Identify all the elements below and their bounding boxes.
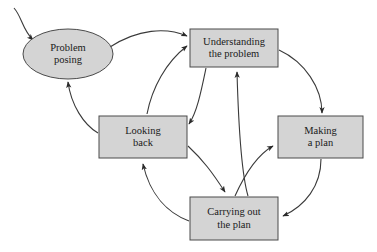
- nodes-group: [23, 29, 363, 240]
- node-carrying-out-the-plan[interactable]: [190, 197, 278, 240]
- edge-looking-back-to-understanding: [147, 46, 187, 114]
- edge-understanding-to-looking-back: [189, 68, 206, 124]
- edge-problem-posing-to-understanding: [110, 31, 187, 47]
- node-understanding-the-problem[interactable]: [190, 29, 278, 67]
- edge-carrying-out-to-making-a-plan: [235, 146, 273, 196]
- edge-understanding-to-making-a-plan: [279, 50, 322, 113]
- problem-solving-cycle-diagram: Problem posing Understanding the problem…: [0, 0, 377, 252]
- edge-carrying-out-to-looking-back: [143, 164, 189, 221]
- diagram-canvas: [0, 0, 377, 252]
- edge-looking-back-to-carrying-out: [188, 146, 225, 192]
- node-looking-back[interactable]: [99, 116, 187, 158]
- edge-looking-back-to-problem-posing: [68, 82, 98, 133]
- edge-carrying-out-to-understanding: [237, 72, 248, 196]
- edge-entry-to-problem-posing: [14, 8, 33, 40]
- node-making-a-plan[interactable]: [278, 116, 363, 158]
- edge-making-a-plan-to-carrying-out: [283, 159, 321, 216]
- node-problem-posing[interactable]: [23, 29, 113, 79]
